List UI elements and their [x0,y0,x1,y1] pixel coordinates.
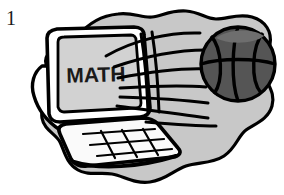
basketball-laptop-illustration: MATH [0,0,284,195]
basketball [201,27,275,101]
clipart-page: of Students 1 [0,0,284,195]
